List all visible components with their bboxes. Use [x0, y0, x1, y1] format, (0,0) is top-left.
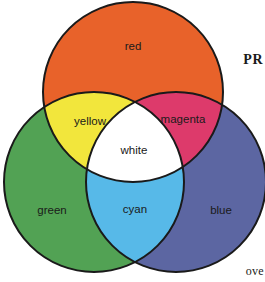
venn-diagram-figure: red green blue yellow magenta cyan white… — [0, 0, 265, 282]
label-white: white — [120, 144, 148, 156]
additive-color-venn-svg: red green blue yellow magenta cyan white — [0, 0, 265, 282]
caption-top-right-fragment: PR — [243, 52, 263, 68]
label-cyan: cyan — [123, 203, 147, 215]
label-magenta: magenta — [161, 113, 206, 125]
label-red: red — [125, 40, 142, 52]
caption-bottom-right-fragment: ove — [246, 264, 264, 279]
label-blue: blue — [210, 204, 232, 216]
label-yellow: yellow — [74, 115, 107, 127]
label-green: green — [37, 204, 66, 216]
